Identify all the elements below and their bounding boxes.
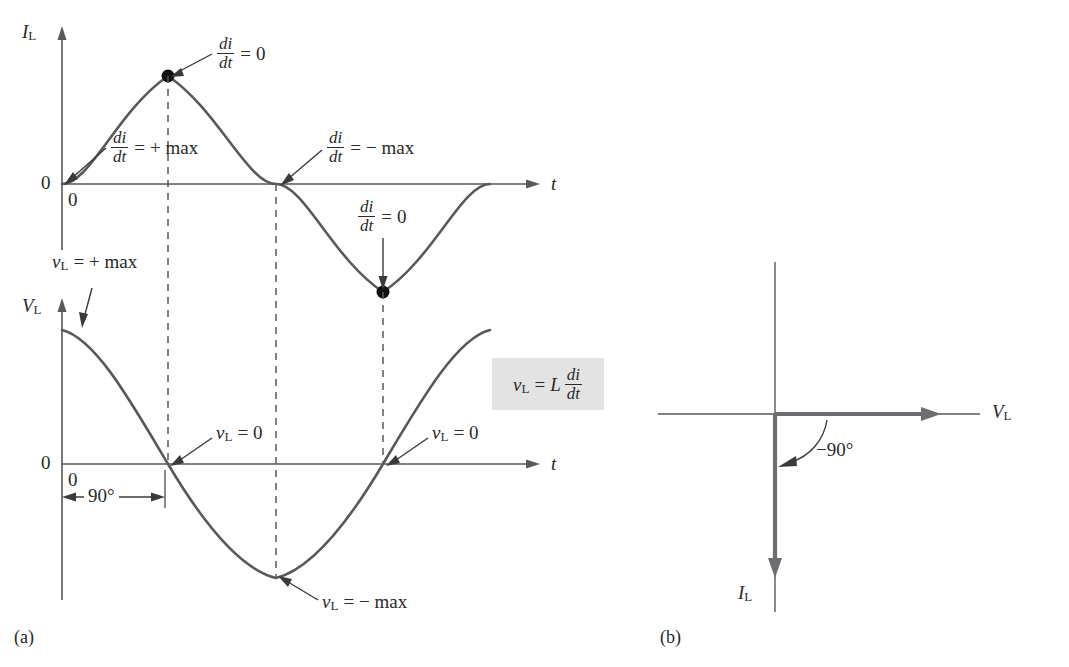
formula-box: vL = L di dt — [492, 358, 604, 410]
voltage-origin-label-below: 0 — [68, 470, 78, 489]
phasor-voltage-label: VL — [992, 402, 1012, 421]
voltage-origin-label-left: 0 — [41, 453, 51, 472]
phasor-diagram-group — [658, 262, 980, 612]
leader-didt-zero-top — [178, 54, 212, 72]
leader-vl-zero-1 — [180, 438, 212, 460]
leader-didt-minus-max — [288, 150, 322, 179]
voltage-phasor-head-icon — [921, 407, 941, 421]
fraction-didt: di dt — [327, 129, 344, 166]
current-y-axis-label: IL — [22, 22, 36, 41]
voltage-x-axis-arrow-icon — [526, 460, 540, 469]
annotation-didt-zero-top: di dt = 0 — [216, 35, 265, 72]
fraction-didt: di dt — [358, 198, 375, 235]
inductor-phase-figure: IL t 0 0 di dt = 0 di dt = + max di dt = — [0, 0, 1069, 667]
voltage-y-axis-arrow-icon — [58, 298, 67, 312]
phasor-angle-label: −90° — [816, 440, 853, 459]
annotation-didt-plus-max: di dt = + max — [110, 129, 198, 166]
panel-a-label: (a) — [14, 628, 34, 646]
voltage-y-axis-label: VL — [22, 296, 42, 315]
current-x-axis-arrow-icon — [526, 180, 540, 189]
phase-dimension-arrow-right-icon — [151, 493, 165, 502]
leader-arrow-vl-minus-max-icon — [278, 576, 292, 587]
annotation-didt-zero-bottom: di dt = 0 — [357, 198, 406, 235]
annotation-vl-zero-2: vL = 0 — [432, 423, 479, 442]
current-phasor-head-icon — [768, 558, 782, 578]
fraction-didt: di dt — [111, 129, 128, 166]
current-x-axis-label: t — [551, 174, 556, 193]
phasor-current-label: IL — [738, 583, 752, 602]
leader-vl-zero-2 — [396, 438, 428, 460]
angle-arc-arrow-icon — [778, 456, 797, 467]
leader-arrow-vl-plus-max-icon — [79, 312, 88, 328]
voltage-graph-group — [58, 288, 541, 600]
annotation-didt-minus-max: di dt = − max — [326, 129, 414, 166]
current-origin-label-left: 0 — [41, 173, 51, 192]
figure-canvas — [0, 0, 1069, 667]
annotation-vl-minus-max: vL = − max — [322, 592, 407, 611]
formula-expression: vL = L di dt — [513, 366, 583, 403]
current-y-axis-arrow-icon — [58, 26, 67, 40]
phase-dimension-arrow-left-icon — [62, 493, 76, 502]
voltage-x-axis-label: t — [551, 454, 556, 473]
fraction-didt: di dt — [565, 366, 582, 403]
annotation-vl-plus-max: vL = + max — [52, 252, 137, 271]
fraction-didt: di dt — [217, 35, 234, 72]
leader-vl-minus-max — [288, 582, 318, 600]
leader-didt-plus-max — [72, 148, 106, 178]
annotation-vl-zero-1: vL = 0 — [216, 423, 263, 442]
current-origin-label-below: 0 — [68, 190, 78, 209]
panel-b-label: (b) — [660, 628, 681, 646]
phase-dimension-label: 90° — [84, 486, 119, 505]
